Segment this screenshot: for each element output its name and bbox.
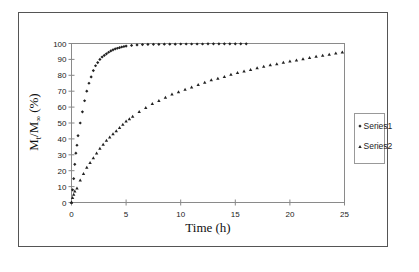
y-tick-label: 40 bbox=[58, 135, 67, 144]
x-tick-label: 0 bbox=[69, 210, 74, 219]
x-tick-label: 15 bbox=[231, 210, 240, 219]
legend-label-series1: Series1 bbox=[364, 121, 393, 131]
legend-item-series1: Series1 bbox=[358, 121, 392, 131]
y-tick-label: 80 bbox=[58, 71, 67, 80]
y-tick-label: 60 bbox=[58, 103, 67, 112]
y-tick-label: 30 bbox=[58, 151, 67, 160]
x-tick-label: 20 bbox=[285, 210, 294, 219]
y-tick-label: 10 bbox=[58, 183, 67, 192]
y-tick-label: 50 bbox=[58, 119, 67, 128]
x-tick-label: 5 bbox=[124, 210, 129, 219]
y-tick-label: 0 bbox=[62, 199, 67, 208]
y-tick-label: 70 bbox=[58, 87, 67, 96]
legend-item-series2: Series2 bbox=[358, 141, 392, 151]
x-axis-title: Time (h) bbox=[185, 220, 230, 235]
x-tick-label: 10 bbox=[176, 210, 185, 219]
y-tick-label: 20 bbox=[58, 167, 67, 176]
y-tick-label: 90 bbox=[58, 55, 67, 64]
y-axis-title: Mt/M∞ (%) bbox=[26, 93, 43, 150]
chart: 0102030405060708090100 0510152025 Mt/M∞ … bbox=[0, 0, 419, 272]
chart-frame bbox=[19, 13, 388, 247]
legend-label-series2: Series2 bbox=[364, 141, 393, 151]
y-tick-label: 100 bbox=[53, 40, 67, 49]
x-tick-label: 25 bbox=[340, 210, 349, 219]
